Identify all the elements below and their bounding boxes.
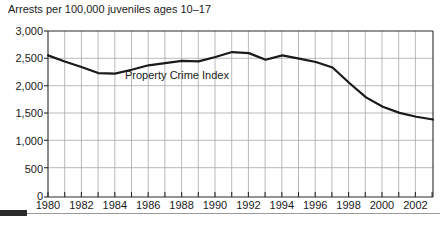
y-tick-label-2500: 2,500 (15, 52, 43, 64)
footer-divider (0, 214, 440, 221)
x-tick-label-1982: 1982 (69, 199, 93, 210)
y-tick-label-1000: 1,000 (15, 135, 43, 147)
line-chart-plot: 3,000 2,500 2,000 1,500 1,000 500 0 (0, 0, 440, 210)
plot-frame (48, 31, 433, 197)
x-tick-label-1994: 1994 (270, 199, 294, 210)
x-tick-label-2002: 2002 (403, 199, 427, 210)
x-tick-label-1986: 1986 (136, 199, 160, 210)
x-axis-tick-labels: 1980 1982 1984 1986 1988 1990 1992 1994 … (36, 199, 428, 210)
footer-hairline (27, 213, 440, 214)
x-tick-label-1992: 1992 (236, 199, 260, 210)
x-axis-ticks (48, 192, 432, 197)
y-tick-label-1500: 1,500 (15, 107, 43, 119)
x-tick-label-1988: 1988 (169, 199, 193, 210)
y-tick-label-3000: 3,000 (15, 25, 43, 37)
x-tick-label-1980: 1980 (36, 199, 60, 210)
x-tick-label-1990: 1990 (203, 199, 227, 210)
footer-marker-block (0, 210, 27, 216)
horizontal-gridlines (48, 58, 433, 167)
series-annotation-property-crime-index: Property Crime Index (125, 69, 229, 81)
x-tick-label-1996: 1996 (303, 199, 327, 210)
chart-figure: Arrests per 100,000 juveniles ages 10–17… (0, 0, 440, 225)
x-tick-label-1998: 1998 (336, 199, 360, 210)
y-tick-label-2000: 2,000 (15, 80, 43, 92)
x-tick-label-2000: 2000 (370, 199, 394, 210)
x-tick-label-1984: 1984 (103, 199, 127, 210)
y-tick-label-500: 500 (25, 163, 43, 175)
y-axis-tick-labels: 3,000 2,500 2,000 1,500 1,000 500 0 (15, 25, 43, 202)
vertical-gridlines (65, 31, 416, 197)
